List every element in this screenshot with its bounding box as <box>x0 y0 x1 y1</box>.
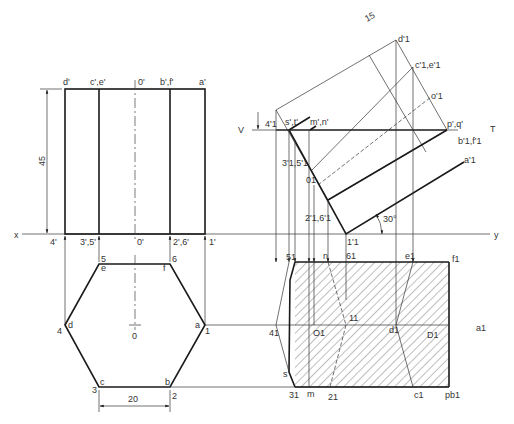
svg-text:c1: c1 <box>414 390 424 400</box>
svg-text:b'1,f'1: b'1,f'1 <box>458 136 481 146</box>
svg-text:61: 61 <box>346 251 356 261</box>
svg-text:m: m <box>307 389 315 399</box>
svg-text:3'1,5'1: 3'1,5'1 <box>282 158 308 168</box>
svg-text:4': 4' <box>50 237 57 247</box>
svg-text:2: 2 <box>172 391 177 401</box>
svg-text:y: y <box>494 230 499 240</box>
svg-text:31: 31 <box>289 390 299 400</box>
svg-text:1': 1' <box>209 237 216 247</box>
svg-text:51: 51 <box>286 252 296 262</box>
svg-text:d1: d1 <box>389 325 399 335</box>
svg-text:d'1: d'1 <box>398 34 410 44</box>
svg-text:4'1: 4'1 <box>265 119 277 129</box>
svg-text:n: n <box>323 251 328 261</box>
svg-text:c'1,e'1: c'1,e'1 <box>415 60 440 70</box>
svg-text:b',f': b',f' <box>160 77 174 87</box>
svg-text:20: 20 <box>128 394 138 404</box>
svg-text:0': 0' <box>137 237 144 247</box>
svg-text:1: 1 <box>205 326 210 336</box>
svg-text:d': d' <box>63 77 70 87</box>
svg-text:a: a <box>195 320 200 330</box>
engineering-drawing: x y d' c',e' 0' b',f' a' 4' 3',5' 0' 2',… <box>0 0 514 424</box>
top-view-hexagon: 0 d c b a f e 4 3 2 1 6 5 <box>57 254 210 401</box>
svg-text:45: 45 <box>37 156 47 166</box>
svg-text:b: b <box>165 377 170 387</box>
svg-text:a': a' <box>199 77 206 87</box>
svg-text:21: 21 <box>328 392 338 402</box>
svg-text:0': 0' <box>138 77 145 87</box>
svg-text:4: 4 <box>57 326 62 336</box>
svg-text:d: d <box>68 320 73 330</box>
svg-text:c: c <box>100 377 105 387</box>
height-dimension: 45 <box>37 89 62 233</box>
svg-text:3',5': 3',5' <box>80 237 96 247</box>
svg-text:41: 41 <box>269 328 279 338</box>
svg-text:0: 0 <box>132 331 137 341</box>
svg-text:3: 3 <box>92 385 97 395</box>
svg-text:01: 01 <box>306 175 316 185</box>
svg-text:s',t': s',t' <box>285 117 298 127</box>
section-view: 51 n 61 e1 f1 41 O1 11 d1 D1 a1 s 31 m 2… <box>269 251 486 402</box>
svg-text:p',q': p',q' <box>447 119 463 129</box>
svg-text:5: 5 <box>101 254 106 264</box>
svg-text:a1: a1 <box>476 323 486 333</box>
svg-text:T: T <box>490 124 496 134</box>
svg-text:30°: 30° <box>383 214 397 224</box>
svg-text:2',6': 2',6' <box>173 237 189 247</box>
svg-text:6: 6 <box>172 254 177 264</box>
svg-text:D1: D1 <box>427 330 439 340</box>
svg-text:15: 15 <box>363 10 377 24</box>
svg-text:o'1: o'1 <box>431 91 443 101</box>
svg-text:m',n': m',n' <box>310 117 329 127</box>
svg-text:2'1,6'1: 2'1,6'1 <box>305 213 331 223</box>
svg-text:a'1: a'1 <box>464 155 476 165</box>
side-dimension: 20 <box>99 390 170 412</box>
svg-text:11: 11 <box>349 313 358 323</box>
svg-text:1'1: 1'1 <box>347 237 359 247</box>
svg-text:pb1: pb1 <box>445 390 460 400</box>
svg-text:s: s <box>283 369 288 379</box>
svg-text:x: x <box>14 230 19 240</box>
svg-text:c',e': c',e' <box>90 77 106 87</box>
svg-text:O1: O1 <box>313 328 325 338</box>
svg-text:f1: f1 <box>452 254 460 264</box>
svg-text:e1: e1 <box>405 251 415 261</box>
svg-text:V: V <box>238 125 244 135</box>
svg-text:e: e <box>101 263 106 273</box>
front-view: d' c',e' 0' b',f' a' 4' 3',5' 0' 2',6' 1… <box>50 77 216 247</box>
